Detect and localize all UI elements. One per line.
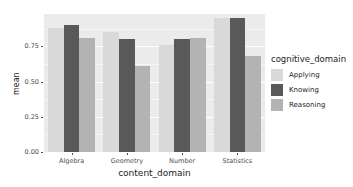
bar [119, 39, 135, 152]
y-tick-label: 0.75 [25, 42, 39, 50]
legend-item-label: Knowing [289, 86, 319, 94]
legend-key-swatch [271, 84, 283, 96]
bar [230, 18, 246, 152]
plot-panel [44, 14, 265, 152]
bar [79, 38, 95, 152]
y-tick-label: 0.50 [25, 78, 39, 86]
x-tick-label: Algebra [59, 157, 84, 165]
bar [64, 25, 80, 152]
bar [135, 66, 151, 152]
legend-key-swatch [271, 99, 283, 111]
bar [174, 39, 190, 152]
y-tick-mark [41, 46, 43, 47]
bar [103, 32, 119, 152]
chart-figure: mean 0.000.250.500.75 AlgebraGeometryNum… [0, 0, 353, 187]
x-tick-mark [127, 153, 128, 155]
bar [190, 38, 206, 152]
y-tick-label: 0.00 [25, 148, 39, 156]
legend-key-swatch [271, 69, 283, 81]
legend-items: ApplyingKnowingReasoning [271, 68, 346, 112]
y-tick-mark [41, 82, 43, 83]
grid-line-major [44, 152, 265, 153]
x-tick-label: Number [169, 157, 195, 165]
legend-item-label: Applying [289, 71, 320, 79]
legend-item: Applying [271, 68, 346, 82]
legend-item: Knowing [271, 83, 346, 97]
y-tick-mark [41, 152, 43, 153]
x-tick-mark [237, 153, 238, 155]
bar [48, 28, 64, 152]
x-tick-mark [182, 153, 183, 155]
y-tick-mark [41, 117, 43, 118]
y-tick-label: 0.25 [25, 113, 39, 121]
x-axis-title: content_domain [44, 168, 265, 178]
bar [214, 18, 230, 152]
legend-item: Reasoning [271, 98, 346, 112]
legend-title: cognitive_domain [271, 54, 346, 64]
x-tick-mark [72, 153, 73, 155]
bar [159, 45, 175, 152]
y-axis-title: mean [12, 72, 21, 95]
legend-item-label: Reasoning [289, 101, 325, 109]
x-tick-label: Geometry [111, 157, 143, 165]
bar [245, 56, 261, 152]
legend: cognitive_domain ApplyingKnowingReasonin… [271, 54, 346, 113]
x-tick-label: Statistics [223, 157, 253, 165]
